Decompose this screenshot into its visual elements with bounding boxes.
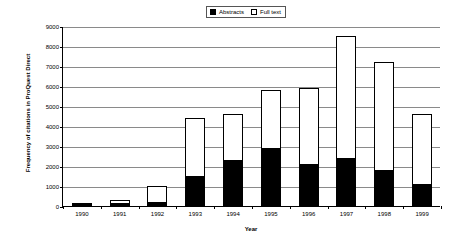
x-axis-tick-label-1997: 1997 [340, 211, 353, 217]
bar-segment-full-text[interactable] [412, 114, 432, 184]
bar-segment-abstracts[interactable] [185, 176, 205, 206]
bar-stack[interactable] [147, 186, 167, 206]
y-axis-tick-label: 0 [56, 204, 59, 210]
y-axis-tick-label: 3000 [46, 144, 59, 150]
bar-stack[interactable] [299, 88, 319, 206]
bar-slot [214, 27, 252, 206]
x-axis-tick-mark [252, 206, 253, 209]
y-axis-tick-label: 2000 [46, 164, 59, 170]
bar-segment-full-text[interactable] [223, 114, 243, 160]
bar-stack[interactable] [261, 90, 281, 206]
x-axis-tick-mark [441, 206, 442, 209]
x-axis-tick-mark [63, 206, 64, 209]
y-axis-tick-label: 9000 [46, 24, 59, 30]
bar-slot [290, 27, 328, 206]
x-axis-tick-label-1998: 1998 [378, 211, 391, 217]
x-axis-tick-label-1992: 1992 [151, 211, 164, 217]
bar-slot [403, 27, 441, 206]
legend-label-full-text: Full text [260, 9, 281, 16]
plot-area: 0100020003000400050006000700080009000 19… [62, 27, 440, 207]
x-axis-title: Year [62, 226, 440, 232]
bar-segment-abstracts[interactable] [72, 204, 92, 206]
y-axis-tick-label: 4000 [46, 124, 59, 130]
bar-stack[interactable] [72, 203, 92, 206]
legend-entry-abstracts: Abstracts [210, 9, 244, 16]
bar-segment-full-text[interactable] [185, 118, 205, 176]
legend-swatch-full-text-icon [251, 9, 257, 15]
x-axis-tick-label-1996: 1996 [302, 211, 315, 217]
bar-stack[interactable] [336, 36, 356, 206]
x-axis-tick-mark [365, 206, 366, 209]
bar-stack[interactable] [412, 114, 432, 206]
x-axis-tick-mark [403, 206, 404, 209]
x-axis-tick-mark [214, 206, 215, 209]
y-axis-tick-label: 6000 [46, 84, 59, 90]
bar-slot [328, 27, 366, 206]
bar-segment-full-text[interactable] [374, 62, 394, 170]
chart-container: Abstracts Full text Frequency of citatio… [0, 0, 452, 247]
bar-slot [63, 27, 101, 206]
legend-swatch-abstracts-icon [210, 9, 216, 15]
bar-segment-abstracts[interactable] [374, 170, 394, 206]
bar-segment-abstracts[interactable] [336, 158, 356, 206]
bar-segment-full-text[interactable] [336, 36, 356, 158]
bar-slot [176, 27, 214, 206]
bar-segment-abstracts[interactable] [412, 184, 432, 206]
y-axis-tick-label: 1000 [46, 184, 59, 190]
bars-group [63, 27, 440, 206]
bar-segment-full-text[interactable] [261, 90, 281, 148]
bar-segment-abstracts[interactable] [147, 202, 167, 206]
y-axis-title: Frequency of citations in ProQuest Direc… [25, 33, 31, 193]
bar-segment-abstracts[interactable] [223, 160, 243, 206]
x-axis-tick-label-1990: 1990 [75, 211, 88, 217]
bar-stack[interactable] [110, 200, 130, 206]
bar-segment-abstracts[interactable] [110, 203, 130, 206]
x-axis-tick-mark [290, 206, 291, 209]
y-axis-tick-label: 5000 [46, 104, 59, 110]
bar-segment-abstracts[interactable] [299, 164, 319, 206]
bar-stack[interactable] [185, 118, 205, 206]
bar-stack[interactable] [223, 114, 243, 206]
y-axis-tick-label: 7000 [46, 64, 59, 70]
bar-slot [139, 27, 177, 206]
x-axis-tick-mark [139, 206, 140, 209]
y-axis-tick-label: 8000 [46, 44, 59, 50]
bar-slot [101, 27, 139, 206]
x-axis-tick-label-1995: 1995 [264, 211, 277, 217]
x-axis-tick-label-1999: 1999 [415, 211, 428, 217]
x-axis-tick-label-1994: 1994 [226, 211, 239, 217]
bar-segment-abstracts[interactable] [261, 148, 281, 206]
bar-segment-full-text[interactable] [147, 186, 167, 202]
bar-segment-full-text[interactable] [299, 88, 319, 164]
x-axis-tick-mark [101, 206, 102, 209]
chart-legend: Abstracts Full text [206, 6, 286, 18]
x-axis-tick-mark [328, 206, 329, 209]
bar-stack[interactable] [374, 62, 394, 206]
x-axis-tick-label-1991: 1991 [113, 211, 126, 217]
bar-slot [365, 27, 403, 206]
legend-entry-full-text: Full text [251, 9, 281, 16]
bar-slot [252, 27, 290, 206]
legend-label-abstracts: Abstracts [219, 9, 244, 16]
x-axis-tick-label-1993: 1993 [189, 211, 202, 217]
x-axis-tick-mark [176, 206, 177, 209]
